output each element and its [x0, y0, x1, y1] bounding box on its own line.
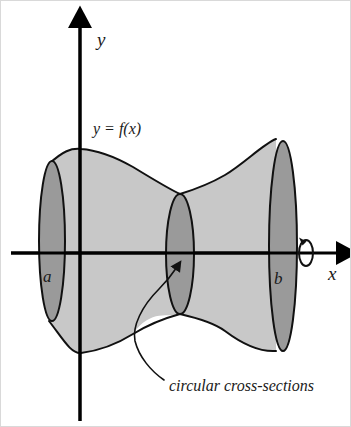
figure-canvas: y x y = f(x) a b circular cross-sections [1, 1, 351, 427]
lower-bound-label-a: a [43, 267, 52, 286]
y-axis-label: y [95, 29, 106, 50]
solid-body-fill [49, 139, 276, 353]
function-label: y = f(x) [91, 120, 141, 138]
cross-section-ellipse-a [39, 161, 65, 321]
cross-section-ellipse-b [269, 141, 297, 351]
x-axis-label: x [327, 263, 337, 284]
cross-sections-caption: circular cross-sections [169, 377, 314, 394]
solid-body-group [49, 139, 276, 353]
upper-bound-label-b: b [274, 269, 283, 288]
solid-of-revolution-figure: y x y = f(x) a b circular cross-sections [0, 0, 351, 427]
